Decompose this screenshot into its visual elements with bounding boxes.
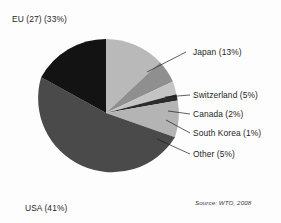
chart-source-note: Source: WTO, 2008 — [195, 199, 252, 206]
pie-label-usa: USA (41%) — [25, 203, 67, 213]
pie-label-eu: EU (27) (33%) — [12, 14, 67, 24]
pie-label-other: Other (5%) — [193, 149, 235, 159]
pie-slices — [38, 39, 179, 172]
pie-chart-figure: EU (27) (33%) Japan (13%) Switzerland (5… — [0, 0, 281, 223]
pie-label-canada: Canada (2%) — [193, 109, 244, 119]
pie-label-japan: Japan (13%) — [193, 47, 242, 57]
pie-label-switzerland: Switzerland (5%) — [193, 90, 258, 100]
pie-chart-canvas: EU (27) (33%) Japan (13%) Switzerland (5… — [0, 0, 281, 223]
pie-label-south-korea: South Korea (1%) — [193, 128, 261, 138]
